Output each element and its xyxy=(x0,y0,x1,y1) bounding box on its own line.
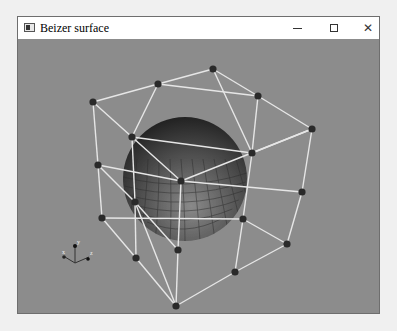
bezier-scene[interactable]: yxz xyxy=(18,39,379,313)
maximize-icon xyxy=(330,24,338,32)
close-button[interactable]: ✕ xyxy=(345,17,391,39)
window-title: Beizer surface xyxy=(40,20,109,36)
svg-text:y: y xyxy=(77,239,80,245)
gl-viewport[interactable]: yxz xyxy=(18,39,379,313)
minimize-icon xyxy=(293,28,302,29)
title-bar[interactable]: Beizer surface ✕ xyxy=(18,17,379,39)
svg-text:x: x xyxy=(62,249,65,255)
svg-text:z: z xyxy=(90,250,93,256)
close-icon: ✕ xyxy=(363,21,373,35)
axes-gizmo-icon: yxz xyxy=(62,239,93,263)
app-window: Beizer surface ✕ yxz xyxy=(17,16,380,314)
app-icon xyxy=(24,23,35,32)
